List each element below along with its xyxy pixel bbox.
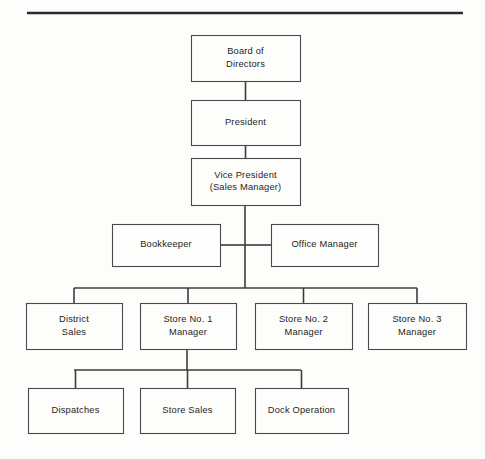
org-box-label-line: Store Sales [162,405,212,415]
org-box-vice-president[interactable]: Vice President(Sales Manager) [192,159,301,206]
org-box-label-line: Dispatches [52,405,100,415]
org-box-label-line: Manager [398,327,436,337]
org-box-president[interactable]: President [192,101,301,146]
org-box-label-line: Bookkeeper [140,239,192,249]
org-box-store-no-1-manager[interactable]: Store No. 1Manager [141,304,237,350]
org-box-district-sales[interactable]: DistrictSales [27,304,123,350]
org-box-store-no-3-manager[interactable]: Store No. 3Manager [369,304,467,350]
org-box-label-line: Store No. 1 [163,314,212,324]
org-box-label-line: Store No. 3 [392,314,441,324]
org-box-label-line: Manager [169,327,207,337]
org-box-label-line: Office Manager [291,239,357,249]
org-box-store-sales[interactable]: Store Sales [141,389,236,434]
org-box-board-of-directors[interactable]: Board ofDirectors [192,36,301,82]
org-box-label-line: Vice President [214,170,277,180]
org-box-bookkeeper[interactable]: Bookkeeper [113,225,221,267]
org-box-store-no-2-manager[interactable]: Store No. 2Manager [256,304,353,350]
org-box-label-line: Store No. 2 [279,314,328,324]
org-box-label-line: Dock Operation [268,405,335,415]
org-box-label-line: Sales [62,327,86,337]
org-chart-page: Board ofDirectorsPresidentVice President… [0,0,485,459]
org-box-label-line: Manager [284,327,322,337]
org-box-label-line: District [59,314,89,324]
org-box-office-manager[interactable]: Office Manager [272,225,379,267]
org-chart-canvas: Board ofDirectorsPresidentVice President… [0,0,485,459]
org-box-label-line: (Sales Manager) [210,182,282,192]
org-box-label-line: Board of [227,46,264,56]
org-box-dock-operation[interactable]: Dock Operation [256,389,349,434]
node-layer: Board ofDirectorsPresidentVice President… [27,36,467,434]
org-box-label-line: President [225,117,266,127]
org-box-label-line: Directors [226,59,265,69]
org-box-dispatches[interactable]: Dispatches [29,389,124,434]
